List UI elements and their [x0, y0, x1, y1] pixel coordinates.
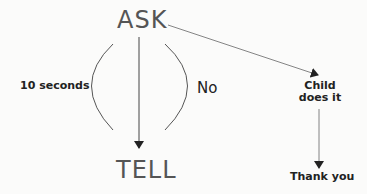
node-child-does-it: Child does it: [296, 80, 344, 104]
label-10-seconds: 10 seconds: [20, 79, 89, 92]
ask-to-child-arrow: [168, 25, 318, 75]
right-arc: [165, 44, 188, 130]
label-no: No: [197, 79, 217, 97]
node-thank-you: Thank you: [290, 170, 354, 183]
node-tell: TELL: [116, 156, 177, 184]
child-line-2: does it: [296, 92, 344, 104]
node-ask: ASK: [117, 6, 167, 34]
left-arc: [92, 44, 114, 130]
